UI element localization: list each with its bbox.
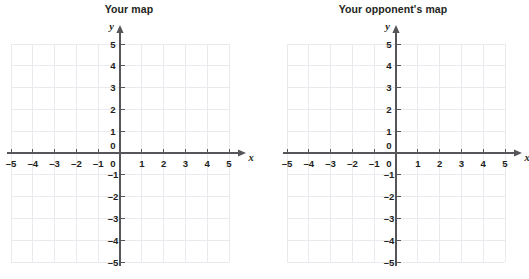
svg-text:1: 1: [386, 126, 392, 137]
svg-text:1: 1: [415, 158, 421, 169]
coordinate-grid-opponent-map[interactable]: –5–4–3–2–1012345–5–4–3–2–1012345yx: [287, 44, 529, 273]
svg-text:3: 3: [110, 82, 115, 93]
svg-text:–3: –3: [325, 158, 336, 169]
svg-text:–5: –5: [282, 158, 293, 169]
svg-text:y: y: [107, 21, 114, 32]
svg-text:2: 2: [110, 104, 115, 115]
svg-text:2: 2: [386, 104, 391, 115]
svg-text:4: 4: [110, 60, 116, 71]
svg-text:4: 4: [205, 158, 211, 169]
chart-title-your-map: Your map: [0, 3, 264, 15]
svg-text:–5: –5: [6, 158, 17, 169]
svg-text:0: 0: [386, 158, 391, 169]
svg-text:4: 4: [481, 158, 487, 169]
svg-text:5: 5: [110, 39, 116, 50]
svg-text:5: 5: [226, 158, 232, 169]
svg-text:x: x: [523, 152, 529, 163]
svg-text:–2: –2: [384, 191, 395, 202]
coordinate-grid-svg-opponent-map: –5–4–3–2–1012345–5–4–3–2–1012345yx: [287, 44, 529, 273]
svg-text:0: 0: [110, 140, 115, 151]
coordinate-grid-svg-your-map: –5–4–3–2–1012345–5–4–3–2–1012345yx: [11, 44, 253, 273]
svg-text:–4: –4: [108, 235, 119, 246]
svg-text:5: 5: [502, 158, 508, 169]
svg-text:–3: –3: [49, 158, 60, 169]
svg-text:–3: –3: [108, 213, 119, 224]
svg-text:–1: –1: [108, 169, 119, 180]
svg-text:2: 2: [161, 158, 166, 169]
svg-text:3: 3: [459, 158, 464, 169]
svg-text:1: 1: [110, 126, 116, 137]
svg-text:1: 1: [139, 158, 145, 169]
svg-text:–2: –2: [108, 191, 119, 202]
svg-text:–1: –1: [369, 158, 380, 169]
svg-text:0: 0: [110, 158, 115, 169]
svg-text:–5: –5: [108, 257, 119, 268]
svg-text:–1: –1: [93, 158, 104, 169]
svg-text:–4: –4: [27, 158, 38, 169]
svg-text:4: 4: [386, 60, 392, 71]
svg-text:–3: –3: [384, 213, 395, 224]
chart-title-opponent-map: Your opponent's map: [262, 3, 524, 15]
svg-text:2: 2: [437, 158, 442, 169]
svg-text:–1: –1: [384, 169, 395, 180]
svg-text:–5: –5: [384, 257, 395, 268]
svg-text:–2: –2: [71, 158, 82, 169]
svg-text:5: 5: [386, 39, 392, 50]
svg-text:–2: –2: [347, 158, 358, 169]
panel-your-map: Your map –5–4–3–2–1012345–5–4–3–2–101234…: [0, 0, 270, 279]
svg-text:3: 3: [183, 158, 188, 169]
panel-opponent-map: Your opponent's map –5–4–3–2–1012345–5–4…: [264, 0, 526, 279]
svg-text:0: 0: [386, 140, 391, 151]
svg-text:–4: –4: [303, 158, 314, 169]
svg-text:–4: –4: [384, 235, 395, 246]
coordinate-grid-your-map[interactable]: –5–4–3–2–1012345–5–4–3–2–1012345yx: [11, 44, 253, 273]
svg-text:3: 3: [386, 82, 391, 93]
svg-text:y: y: [383, 21, 390, 32]
svg-text:x: x: [247, 152, 253, 163]
